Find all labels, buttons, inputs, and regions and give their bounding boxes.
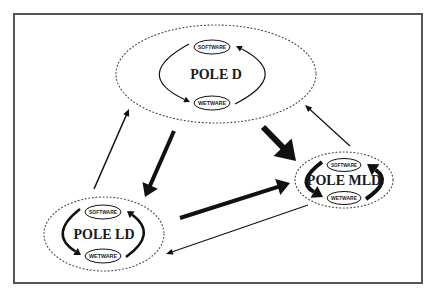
wetware-node: WETWARE [327, 192, 361, 205]
pole-flow-diagram: POLE DSOFTWAREWETWAREPOLE LDSOFTWAREWETW… [0, 0, 438, 298]
wetware-label: WETWARE [89, 253, 117, 259]
pole-ld: POLE LDSOFTWAREWETWARE [44, 197, 164, 271]
pole-mld: POLE MLDSOFTWAREWETWARE [295, 152, 393, 208]
pole-title: POLE LD [73, 227, 134, 242]
software-label: SOFTWARE [331, 162, 357, 168]
poles-layer: POLE DSOFTWAREWETWAREPOLE LDSOFTWAREWETW… [44, 25, 393, 271]
pole-title: POLE MLD [307, 173, 381, 188]
software-node: SOFTWARE [194, 40, 230, 54]
software-node: SOFTWARE [85, 205, 121, 219]
pole-d: POLE DSOFTWAREWETWARE [116, 25, 316, 123]
flow-arrow-pole-ld-to-pole-d [94, 109, 129, 189]
pole-title: POLE D [190, 67, 242, 82]
wetware-label: WETWARE [198, 100, 226, 106]
flow-arrow-pole-d-to-pole-ld [142, 131, 174, 197]
wetware-node: WETWARE [194, 96, 230, 110]
wetware-node: WETWARE [85, 249, 121, 263]
flow-arrow-pole-d-to-pole-mld [263, 127, 296, 161]
cycle-arrow-software-to-wetware [159, 44, 190, 102]
software-label: SOFTWARE [198, 44, 226, 50]
diagram-frame [14, 14, 422, 283]
flow-arrow-pole-mld-to-pole-ld [166, 205, 308, 255]
arrowhead-icon [166, 249, 174, 255]
software-label: SOFTWARE [89, 209, 117, 215]
flow-arrow-pole-ld-to-pole-mld [180, 179, 290, 218]
software-node: SOFTWARE [327, 159, 361, 172]
flow-arrow-pole-mld-to-pole-d [305, 105, 350, 146]
wetware-label: WETWARE [331, 195, 357, 201]
